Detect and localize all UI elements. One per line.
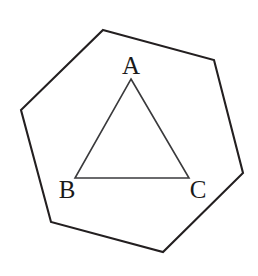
geometry-figure-svg: A B C [0,0,258,276]
vertex-label-b: B [59,176,76,203]
figure-canvas: A B C [0,0,258,276]
vertex-label-a: A [122,52,140,79]
vertex-label-c: C [190,176,207,203]
inner-triangle-shape [75,79,189,178]
